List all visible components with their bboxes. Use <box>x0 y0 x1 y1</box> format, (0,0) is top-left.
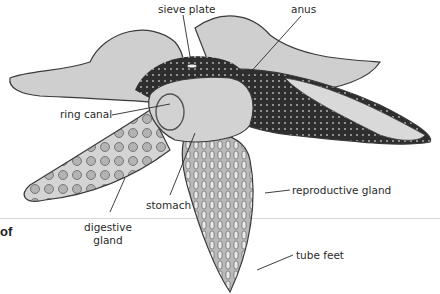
label-digestive-gland-line1: digestive <box>84 221 132 234</box>
label-digestive-gland: digestive gland <box>84 221 132 247</box>
label-reproductive-gland: reproductive gland <box>292 184 391 197</box>
sieve-plate-shape <box>187 64 197 68</box>
label-ring-canal: ring canal <box>60 108 112 121</box>
label-stomach: stomach <box>146 199 191 212</box>
label-sieve-plate: sieve plate <box>158 3 215 16</box>
arm-lower-left <box>24 110 170 201</box>
central-disc <box>149 77 253 142</box>
starfish-illustration <box>0 0 440 294</box>
arm-lower <box>182 133 253 292</box>
label-anus: anus <box>291 3 316 16</box>
diagram-stage: of <box>0 0 440 294</box>
label-digestive-gland-line2: gland <box>84 234 132 247</box>
label-tube-feet: tube feet <box>296 249 344 262</box>
